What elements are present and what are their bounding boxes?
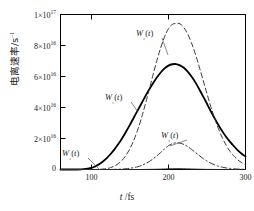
y-axis-title: 电离速率/s−1 [7, 11, 21, 107]
series-curve-w2t [61, 23, 246, 169]
x-tick-label-300: 300 [225, 173, 254, 182]
annotation-leaders [88, 38, 187, 170]
series-curve-w3t [61, 143, 246, 170]
x-tick-label-200: 200 [148, 173, 189, 182]
series-label-w3: W₃(t) [161, 130, 178, 142]
figure-ionization-rate: 1×1017 8×1016 6×1016 4×1016 2×1016 0 100… [0, 0, 254, 211]
series-curve-w1t [61, 64, 246, 170]
y-tick-label-2e16: 2×1016 [4, 133, 56, 144]
y-axis-ticks [61, 15, 66, 170]
series-label-w4: W₄(t) [62, 148, 79, 160]
x-tick-label-100: 100 [71, 173, 112, 182]
x-axis-title: t /fs [0, 192, 254, 202]
w2-label-leader [162, 38, 168, 55]
series-label-w2: W₂(t) [136, 28, 153, 40]
y-tick-label-0: 0 [4, 164, 56, 173]
curve-layer [61, 23, 246, 169]
series-label-w1: W₁(t) [105, 92, 122, 104]
w1-label-leader [131, 102, 138, 112]
